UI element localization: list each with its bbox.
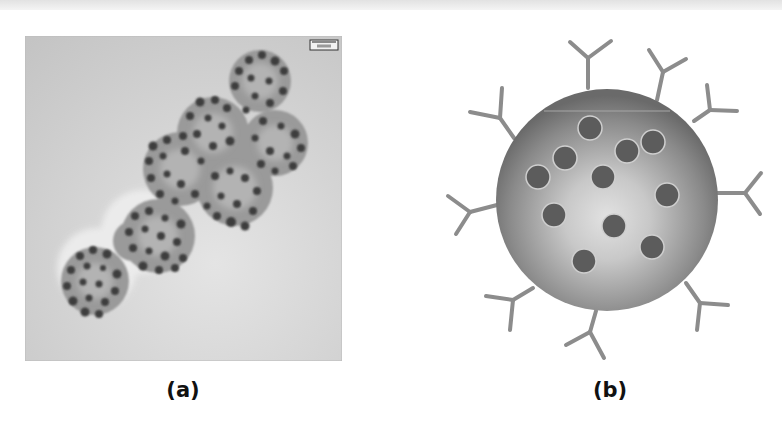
antibody-icon xyxy=(717,173,761,214)
antibody-icon xyxy=(570,41,611,88)
nanoparticle xyxy=(526,165,550,189)
nanoparticle xyxy=(572,249,596,273)
tem-micrograph xyxy=(25,36,342,361)
antibody-icon xyxy=(486,288,533,330)
antibody-icon xyxy=(448,196,497,234)
panel-b-schematic xyxy=(440,30,780,370)
nanosphere-schematic xyxy=(440,30,780,370)
nanoparticle xyxy=(602,214,626,238)
nanoparticle xyxy=(578,116,602,140)
panel-a-tem-image xyxy=(25,36,342,361)
nanoparticle xyxy=(641,130,665,154)
nanoparticle xyxy=(591,165,615,189)
nanoparticle xyxy=(655,183,679,207)
antibody-icon xyxy=(686,283,728,330)
panel-a-label: (a) xyxy=(143,378,223,402)
nanoparticle xyxy=(640,235,664,259)
nanoparticle xyxy=(542,203,566,227)
antibody-icon xyxy=(649,50,686,100)
panel-b-label: (b) xyxy=(570,378,650,402)
scale-bar xyxy=(310,40,338,50)
antibody-icon xyxy=(566,311,604,358)
nanoparticle xyxy=(553,146,577,170)
top-edge-band xyxy=(0,0,782,10)
antibody-icon xyxy=(470,88,514,138)
nanoparticle xyxy=(615,139,639,163)
polymer-sphere xyxy=(496,89,718,311)
antibody-icon xyxy=(694,85,737,121)
